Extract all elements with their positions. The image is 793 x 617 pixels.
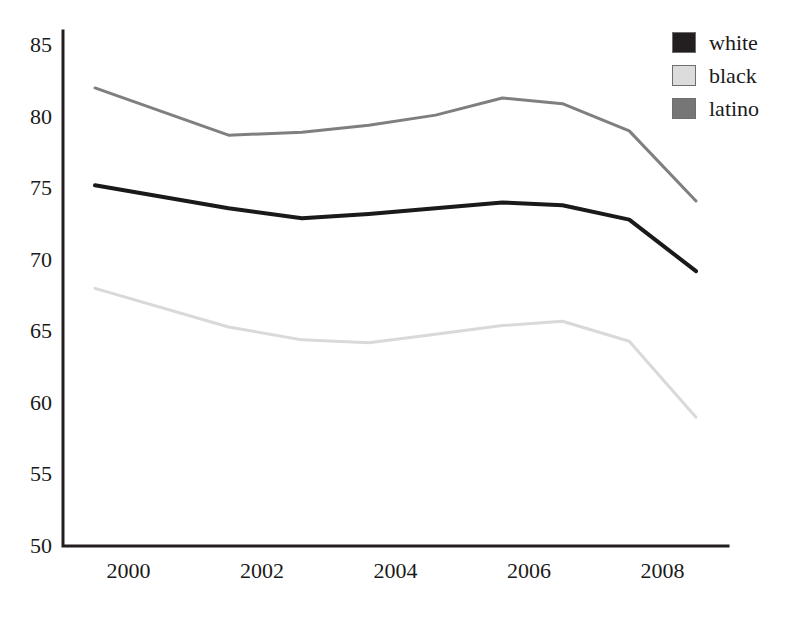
x-tick-label-2000: 2000	[83, 560, 173, 582]
y-tick-label-85: 85	[0, 34, 52, 56]
legend-item-white[interactable]: white	[672, 26, 790, 59]
y-tick-label-70: 70	[0, 249, 52, 271]
series-line-latino	[95, 88, 696, 201]
x-tick-label-2002: 2002	[217, 560, 307, 582]
x-tick-label-2008: 2008	[618, 560, 708, 582]
legend-swatch-latino	[672, 98, 696, 119]
legend-swatch-white	[672, 32, 696, 53]
axis-lines	[63, 31, 728, 546]
y-tick-label-55: 55	[0, 463, 52, 485]
axes	[63, 31, 728, 546]
x-tick-label-2004: 2004	[351, 560, 441, 582]
legend: whiteblacklatino	[672, 26, 790, 125]
legend-item-black[interactable]: black	[672, 59, 790, 92]
y-tick-label-80: 80	[0, 106, 52, 128]
legend-label-black: black	[709, 65, 757, 87]
series-line-black	[95, 288, 696, 417]
legend-label-latino: latino	[709, 98, 759, 120]
legend-swatch-black	[672, 65, 696, 86]
data-series-group	[95, 88, 696, 417]
y-tick-label-50: 50	[0, 535, 52, 557]
y-tick-label-60: 60	[0, 392, 52, 414]
x-tick-label-2006: 2006	[484, 560, 574, 582]
legend-label-white: white	[709, 32, 758, 54]
line-chart: 5055606570758085 20002002200420062008 wh…	[0, 0, 793, 617]
series-line-white	[95, 185, 696, 271]
legend-item-latino[interactable]: latino	[672, 92, 790, 125]
y-tick-label-65: 65	[0, 320, 52, 342]
y-tick-label-75: 75	[0, 177, 52, 199]
